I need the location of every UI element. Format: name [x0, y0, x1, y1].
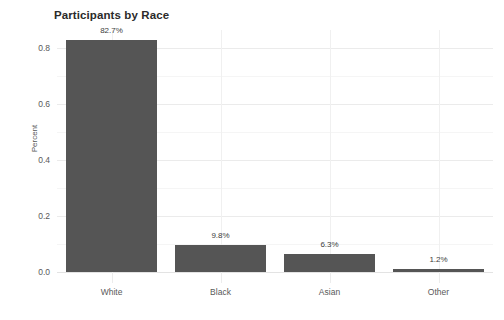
bar-asian[interactable]: [284, 254, 376, 272]
bar-white[interactable]: [66, 40, 158, 272]
y-tick-label: 0.4: [16, 156, 50, 165]
gridline-vertical: [330, 30, 331, 273]
x-axis-line: [57, 272, 493, 273]
x-tick-label-other: Other: [389, 288, 489, 297]
x-tick-label-asian: Asian: [280, 288, 380, 297]
x-tick-stub: [330, 272, 331, 283]
bar-chart: Participants by Race Percent 0.00.20.40.…: [0, 0, 504, 320]
value-label-white: 82.7%: [72, 27, 152, 35]
bar-other[interactable]: [393, 269, 485, 272]
x-tick-stub: [221, 272, 222, 283]
value-label-black: 9.8%: [181, 232, 261, 240]
x-tick-stub: [112, 272, 113, 283]
chart-title: Participants by Race: [54, 9, 454, 21]
x-tick-label-white: White: [62, 288, 162, 297]
gridline-vertical: [439, 30, 440, 273]
x-tick-stub: [439, 272, 440, 283]
bar-black[interactable]: [175, 245, 267, 272]
value-label-other: 1.2%: [399, 256, 479, 264]
value-label-asian: 6.3%: [290, 241, 370, 249]
y-tick-label: 0.6: [16, 100, 50, 109]
x-tick-label-black: Black: [171, 288, 271, 297]
y-tick-label: 0.2: [16, 212, 50, 221]
y-tick-label: 0.0: [16, 268, 50, 277]
y-tick-label: 0.8: [16, 44, 50, 53]
y-axis-ticks: 0.00.20.40.60.8: [14, 0, 50, 320]
